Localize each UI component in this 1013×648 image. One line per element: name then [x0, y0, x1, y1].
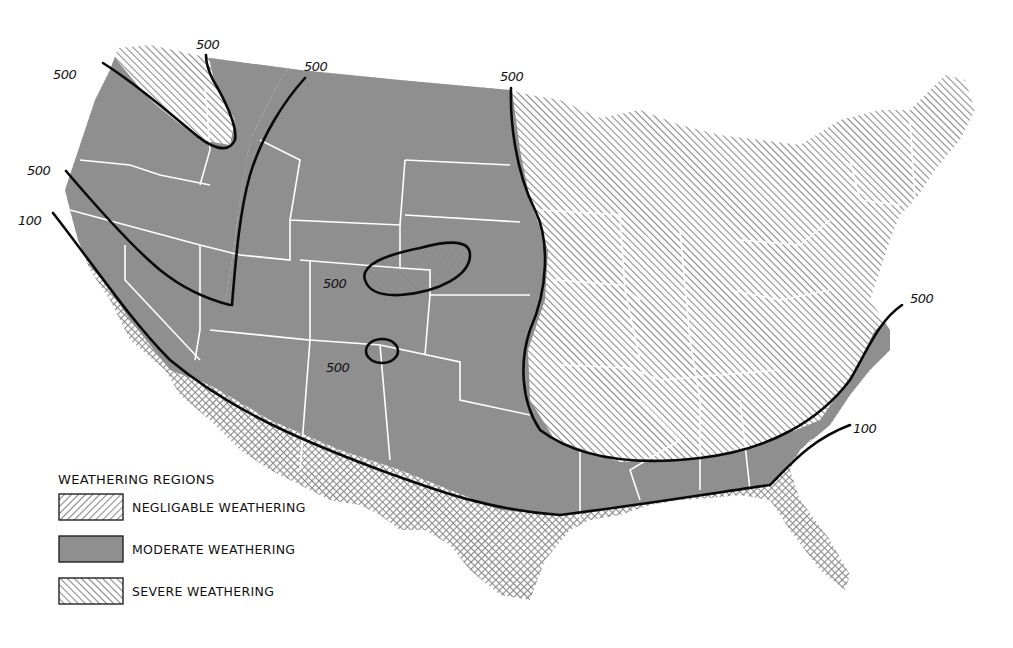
- contour-label: 500: [910, 291, 934, 306]
- legend-label: NEGLIGABLE WEATHERING: [132, 500, 306, 515]
- contour-label: 500: [304, 59, 328, 74]
- contour-label: 100: [853, 421, 877, 436]
- contour-label: 500: [326, 360, 350, 375]
- contour-label: 500: [323, 276, 347, 291]
- legend-item-negligible: NEGLIGABLE WEATHERING: [58, 493, 358, 521]
- forward-hatch-swatch-icon: [58, 577, 124, 605]
- legend: WEATHERING REGIONS NEGLIGABLE WEATHERING…: [58, 472, 358, 619]
- contour-label: 500: [196, 37, 220, 52]
- solid-gray-swatch-icon: [58, 535, 124, 563]
- legend-label: SEVERE WEATHERING: [132, 584, 274, 599]
- legend-label: MODERATE WEATHERING: [132, 542, 295, 557]
- legend-item-moderate: MODERATE WEATHERING: [58, 535, 358, 563]
- back-hatch-swatch-icon: [58, 493, 124, 521]
- contour-label: 500: [53, 67, 77, 82]
- legend-item-severe: SEVERE WEATHERING: [58, 577, 358, 605]
- contour-label: 100: [18, 213, 42, 228]
- contour-label: 500: [500, 69, 524, 84]
- contour-label: 500: [27, 163, 51, 178]
- legend-title: WEATHERING REGIONS: [58, 472, 358, 487]
